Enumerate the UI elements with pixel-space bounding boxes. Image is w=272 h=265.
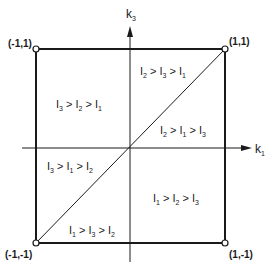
region-label-lower-left-top: I3 > I1 > I2 bbox=[47, 160, 93, 174]
region-label-upper-left: I3 > I2 > I1 bbox=[56, 98, 102, 112]
region-label-upper-right-top: I2 > I3 > I1 bbox=[140, 65, 186, 79]
corner-marker-bottom-left bbox=[33, 240, 39, 246]
region-label-lower-right: I1 > I2 > I3 bbox=[153, 192, 199, 206]
k1-arrow-icon bbox=[241, 145, 252, 151]
k-space-diagram: k1 k3 (-1,1) (1,1) (-1,-1) (1,-1) I3 > I… bbox=[0, 0, 272, 265]
k3-label: k3 bbox=[126, 7, 136, 22]
corner-marker-top-left bbox=[33, 46, 39, 52]
region-label-upper-right-bottom: I2 > I1 > I3 bbox=[160, 124, 206, 138]
corner-label-bottom-right: (1,-1) bbox=[229, 249, 253, 260]
corner-label-bottom-left: (-1,-1) bbox=[5, 249, 32, 260]
corner-marker-top-right bbox=[222, 46, 228, 52]
corner-label-top-right: (1,1) bbox=[229, 36, 250, 47]
corner-label-top-left: (-1,1) bbox=[8, 38, 32, 49]
k3-arrow-icon bbox=[127, 26, 133, 37]
region-label-lower-left-bottom: I1 > I3 > I2 bbox=[69, 224, 115, 238]
k1-label: k1 bbox=[255, 142, 265, 157]
corner-marker-bottom-right bbox=[222, 240, 228, 246]
